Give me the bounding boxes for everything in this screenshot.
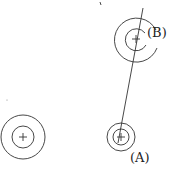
- left-concentric-circles: [1, 115, 45, 159]
- label-a: (A): [130, 150, 150, 165]
- crosshair-icon: [132, 35, 140, 43]
- crosshair-icon: [19, 133, 27, 141]
- axis-line: [118, 8, 143, 143]
- speck: [6, 99, 7, 100]
- diagram-canvas: (B) (A): [0, 0, 174, 181]
- label-b: (B): [147, 25, 167, 40]
- stray-mark: [100, 2, 101, 5]
